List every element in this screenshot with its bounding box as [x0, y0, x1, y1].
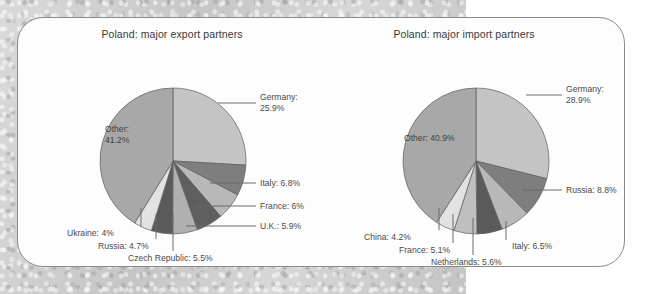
label-france: France: 6% — [260, 201, 304, 211]
label-germany-line2: 28.9% — [566, 95, 591, 105]
import-pie-svg: Germany: 28.9% Other: 40.9% Russia: 8.8%… — [326, 18, 626, 268]
label-italy: Italy: 6.8% — [260, 178, 300, 188]
label-china: China: 4.2% — [364, 232, 411, 242]
label-germany-line2: 25.9% — [260, 103, 285, 113]
label-other-line2: 41.2% — [105, 135, 130, 145]
import-pie-chart: Poland: major import partners Germany: 2… — [326, 18, 626, 268]
figure-card: Poland: major export partners Germany: 2… — [17, 17, 625, 267]
label-uk: U.K.: 5.9% — [260, 221, 301, 231]
label-other-line1: Other: — [105, 124, 129, 134]
import-pie-slices — [403, 88, 549, 234]
export-pie-svg: Germany: 25.9% Other: 41.2% Italy: 6.8% … — [18, 18, 338, 268]
export-pie-chart: Poland: major export partners Germany: 2… — [18, 18, 338, 268]
label-germany-line1: Germany: — [566, 84, 604, 94]
label-russia: Russia: 4.7% — [98, 241, 149, 251]
pie-slice-germany — [173, 88, 246, 165]
label-france: France: 5.1% — [399, 245, 450, 255]
export-pie-slices — [100, 88, 246, 234]
label-germany-line1: Germany: — [260, 92, 298, 102]
label-netherlands: Netherlands: 5.6% — [431, 257, 502, 267]
label-czech-republic: Czech Republic: 5.5% — [128, 253, 213, 263]
label-other: Other: 40.9% — [404, 133, 455, 143]
label-ukraine: Ukraine: 4% — [67, 228, 114, 238]
label-russia: Russia: 8.8% — [566, 185, 617, 195]
label-italy: Italy: 6.5% — [512, 241, 552, 251]
